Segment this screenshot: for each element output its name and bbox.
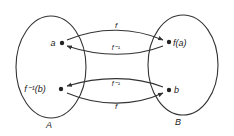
label-fa: f(a) <box>173 38 187 48</box>
label-set-b: B <box>175 117 181 127</box>
arrow-f-top <box>67 30 163 40</box>
point-a <box>60 41 64 45</box>
label-a: a <box>50 38 55 48</box>
label-arrow-finv-top: f⁻¹ <box>112 44 121 51</box>
set-b-ellipse <box>148 15 218 115</box>
set-a-ellipse <box>16 16 86 118</box>
label-finvb: f⁻¹(b) <box>24 84 46 94</box>
point-fa <box>167 40 171 44</box>
label-arrow-f-top: f <box>115 21 118 30</box>
point-finvb <box>59 87 63 91</box>
label-b: b <box>174 85 179 95</box>
point-b <box>167 88 171 92</box>
label-set-a: A <box>45 120 52 130</box>
label-arrow-finv-bottom: f⁻¹ <box>112 80 121 87</box>
inverse-function-diagram: a f(a) f⁻¹(b) b f f⁻¹ f⁻¹ f A B <box>0 0 234 136</box>
